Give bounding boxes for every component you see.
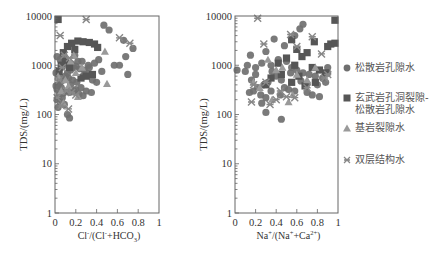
legend-item-basalt-loose-rock-water: 玄武岩孔洞裂隙- 松散岩孔隙水 [342,92,429,116]
x-tick-label: 0 [52,217,57,228]
plot-tds-vs-na-ratio: 11010010001000000.20.40.60.81Na+/(Na++Ca… [198,11,341,243]
x-tick-label: 0.6 [111,217,124,228]
legend-label: 基岩裂隙水 [355,122,405,134]
y-tick-label: 1 [47,208,52,219]
y-tick-label: 1000 [211,60,232,71]
square-marker-icon [342,92,352,104]
y-tick-label: 10 [222,158,233,169]
y-axis-label: TDS/(mg/L) [198,98,210,151]
x-tick-label: 0.8 [132,217,145,228]
legend-item-loose-rock-pore-water: 松散岩孔隙水 [342,62,415,74]
x-tick-label: 0.2 [249,217,262,228]
triangle-marker-icon [342,122,352,134]
x-tick-label: 0.2 [69,217,82,228]
x-tick-label: 0.8 [311,217,324,228]
y-tick-label: 10 [42,158,53,169]
y-tick-label: 1 [227,208,232,219]
y-tick-label: 100 [216,109,232,120]
x-marker-icon [342,154,352,166]
x-tick-label: 0.4 [90,217,104,228]
x-axis-label: Na+/(Na++Ca2+) [257,229,321,242]
x-tick-label: 0 [232,217,237,228]
x-axis-label: Cl-/(Cl-+HCO3) [78,229,141,243]
legend-item-bedrock-fissure-water: 基岩裂隙水 [342,122,405,134]
data-points [52,16,136,122]
series-square [55,16,102,82]
legend-label: 玄武岩孔洞裂隙- 松散岩孔隙水 [355,92,429,116]
circle-marker-icon [342,62,352,74]
legend-item-double-layer-water: 双层结构水 [342,154,405,166]
y-tick-label: 10000 [26,11,52,22]
y-tick-label: 1000 [31,60,52,71]
data-points [233,15,338,123]
y-axis-ticks [55,18,59,213]
plot-tds-vs-cl-ratio: 11010010001000000.20.40.60.81Cl-/(Cl-+HC… [18,11,162,243]
y-axis-ticks [235,18,239,213]
legend-label: 松散岩孔隙水 [355,62,415,74]
x-tick-label: 1 [335,217,340,228]
y-tick-label: 100 [36,109,52,120]
legend-label: 双层结构水 [355,154,405,166]
x-tick-label: 0.4 [270,217,284,228]
x-tick-label: 1 [156,217,161,228]
y-tick-label: 10000 [206,11,232,22]
x-tick-label: 0.6 [290,217,303,228]
y-axis-label: TDS/(mg/L) [18,98,30,151]
